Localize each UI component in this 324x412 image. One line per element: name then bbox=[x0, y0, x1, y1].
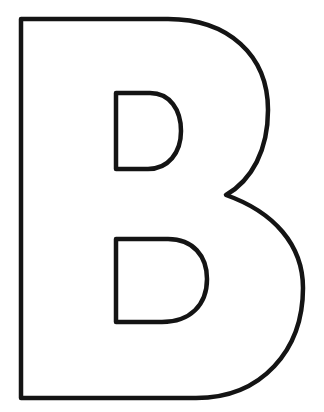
letter-b-lower-counter bbox=[116, 239, 207, 322]
letter-b-upper-counter bbox=[116, 93, 181, 169]
letter-b-outline bbox=[0, 0, 324, 412]
letter-b-outer-contour bbox=[21, 19, 303, 398]
